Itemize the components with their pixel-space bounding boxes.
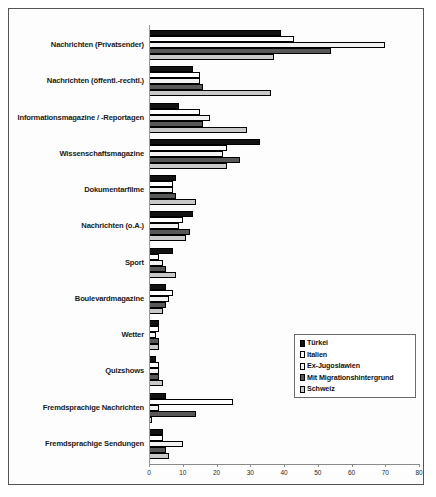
legend-swatch-icon <box>300 351 305 358</box>
legend-label: Türkei <box>307 339 328 346</box>
category-label: Nachrichten (Privatsender) <box>51 41 144 49</box>
legend-swatch-icon <box>300 363 305 370</box>
plot-area: Nachrichten (Privatsender)Nachrichten (ö… <box>9 9 423 484</box>
bar-11-4 <box>149 453 169 459</box>
legend-item: Mit Migrationshintergrund <box>300 374 411 382</box>
axis-tick-label: 0 <box>147 469 151 476</box>
axis-tick <box>217 464 218 467</box>
axis-tick <box>284 464 285 467</box>
legend-label: Italien <box>307 351 327 358</box>
bars-layer <box>149 9 415 484</box>
category-label: Informationsmagazine / -Reportagen <box>17 114 144 122</box>
legend-label: Schweiz <box>307 385 335 392</box>
legend-label: Mit Migrationshintergrund <box>307 374 394 381</box>
bar-1-4 <box>149 90 271 96</box>
axis-tick <box>419 464 420 467</box>
bar-0-4 <box>149 54 274 60</box>
axis-tick-label: 20 <box>213 469 220 476</box>
category-label: Fremdsprachige Nachrichten <box>43 404 144 412</box>
axis-tick <box>183 464 184 467</box>
legend-swatch-icon <box>300 374 305 381</box>
axis-tick-label: 40 <box>280 469 287 476</box>
value-axis-line <box>149 25 150 464</box>
axis-tick-label: 50 <box>314 469 321 476</box>
axis-tick <box>352 464 353 467</box>
legend-item: Italien <box>300 351 411 359</box>
category-label: Fremdsprachige Sendungen <box>45 440 144 448</box>
category-label: Sport <box>125 259 144 267</box>
category-label: Nachrichten (o.A.) <box>81 222 144 230</box>
chart-legend: TürkeiItalienEx-JugoslawienMit Migration… <box>294 334 416 398</box>
chart-frame: Nachrichten (Privatsender)Nachrichten (ö… <box>8 8 424 485</box>
axis-tick-label: 80 <box>415 469 422 476</box>
category-label: Wetter <box>121 331 144 339</box>
bar-4-4 <box>149 199 196 205</box>
category-label: Wissenschaftsmagazine <box>59 150 144 158</box>
bar-2-4 <box>149 127 247 133</box>
axis-tick-label: 70 <box>382 469 389 476</box>
bar-5-4 <box>149 235 186 241</box>
axis-tick <box>385 464 386 467</box>
axis-tick-label: 10 <box>179 469 186 476</box>
category-label: Boulevardmagazine <box>75 295 144 303</box>
axis-tick <box>318 464 319 467</box>
bar-10-3 <box>149 411 196 417</box>
legend-item: Ex-Jugoslawien <box>300 362 411 370</box>
category-axis-labels: Nachrichten (Privatsender)Nachrichten (ö… <box>13 9 144 484</box>
bar-3-4 <box>149 163 227 169</box>
category-label: Quizshows <box>105 367 144 375</box>
legend-label: Ex-Jugoslawien <box>307 362 360 369</box>
bar-6-4 <box>149 272 176 278</box>
bar-7-4 <box>149 308 163 314</box>
legend-swatch-icon <box>300 340 305 347</box>
category-label: Dokumentarfilme <box>84 186 144 194</box>
legend-item: Schweiz <box>300 385 411 393</box>
legend-item: Türkei <box>300 339 411 347</box>
bar-10-1 <box>149 399 233 405</box>
category-label: Nachrichten (öffentl.-rechtl.) <box>47 77 144 85</box>
axis-tick <box>250 464 251 467</box>
axis-tick <box>149 464 150 467</box>
axis-tick-label: 60 <box>348 469 355 476</box>
bar-9-4 <box>149 380 163 386</box>
axis-tick-label: 30 <box>247 469 254 476</box>
bar-8-4 <box>149 344 159 350</box>
legend-swatch-icon <box>300 386 305 393</box>
